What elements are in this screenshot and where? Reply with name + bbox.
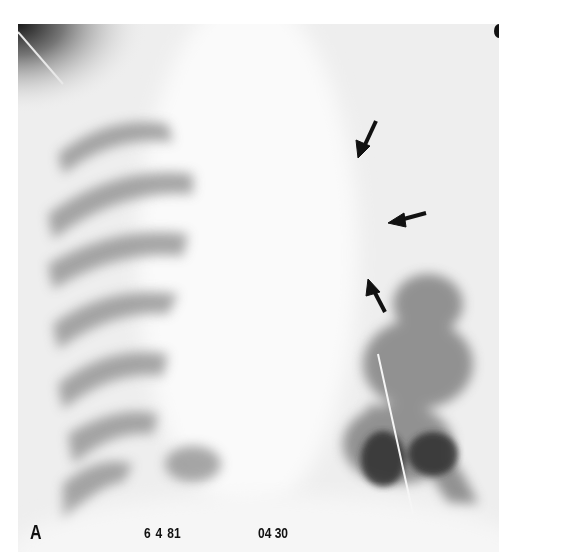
film-marker-dot [494,24,499,38]
chest-xray-image: A 6 4 81 04 30 [18,24,499,552]
time-stamp: 04 30 [258,524,288,541]
date-stamp: 6 4 81 [144,524,181,541]
xray-rendering [18,24,499,552]
panel-label: A [30,521,42,544]
